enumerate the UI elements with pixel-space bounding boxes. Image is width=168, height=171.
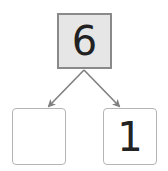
arrow-left (49, 70, 84, 106)
whole-box: 6 (57, 13, 112, 69)
whole-value: 6 (72, 18, 97, 64)
part-box-left[interactable] (12, 108, 66, 165)
part-right-value: 1 (117, 114, 142, 160)
arrow-right (84, 70, 119, 106)
part-box-right: 1 (103, 108, 157, 165)
